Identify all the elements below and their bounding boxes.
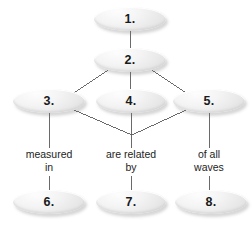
concept-node-3[interactable]: 3. <box>13 89 85 113</box>
concept-node-5[interactable]: 5. <box>173 89 245 113</box>
concept-node-4[interactable]: 4. <box>96 89 166 113</box>
concept-node-label: 1. <box>125 12 136 25</box>
node-layer: 1.2.3.4.5.6.7.8.measured inare related b… <box>0 0 252 226</box>
concept-node-8[interactable]: 8. <box>175 190 247 214</box>
concept-node-6[interactable]: 6. <box>13 190 85 214</box>
link-label-3: of all waves <box>164 148 252 173</box>
concept-node-label: 2. <box>125 53 136 66</box>
concept-node-label: 5. <box>204 94 215 107</box>
concept-node-label: 4. <box>126 94 137 107</box>
concept-node-1[interactable]: 1. <box>94 7 166 31</box>
concept-node-label: 7. <box>126 195 137 208</box>
concept-node-label: 8. <box>206 195 217 208</box>
concept-node-label: 3. <box>44 94 55 107</box>
concept-node-2[interactable]: 2. <box>94 48 166 72</box>
link-label-1: measured in <box>4 148 94 173</box>
link-label-2: are related by <box>86 148 176 173</box>
concept-map: 1.2.3.4.5.6.7.8.measured inare related b… <box>0 0 252 226</box>
concept-node-label: 6. <box>44 195 55 208</box>
concept-node-7[interactable]: 7. <box>96 190 166 214</box>
